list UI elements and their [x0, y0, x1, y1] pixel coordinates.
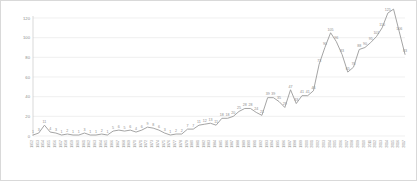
- x-axis-tick-label: 1959: [70, 140, 74, 148]
- x-axis-tick-label: 1999: [299, 140, 303, 148]
- data-point-label: 125: [385, 8, 391, 12]
- data-point-label: 95: [369, 37, 373, 41]
- data-point-label: 101: [373, 31, 379, 35]
- y-axis-tick-label: 40: [25, 94, 30, 99]
- x-axis-tick-label: 1970: [133, 140, 137, 148]
- data-point-label: 1: [32, 130, 34, 134]
- data-point-label: 4: [49, 127, 51, 131]
- y-axis-tick-label: 60: [25, 75, 30, 80]
- data-point-label: 3: [164, 128, 166, 132]
- data-point-label: 83: [403, 49, 407, 53]
- x-axis-tick-label: 1990: [247, 140, 251, 148]
- x-axis-tick-label: 1969: [127, 140, 131, 148]
- data-point-label: 7: [187, 124, 189, 128]
- x-axis-tick-label: 2006: [339, 140, 343, 148]
- x-axis-tick-label: 1983: [207, 140, 211, 148]
- data-point-label: 6: [118, 125, 120, 129]
- x-axis-tick-label: 1997: [288, 140, 292, 148]
- data-point-label: 73: [317, 59, 321, 63]
- x-axis-tick-label: 1995: [276, 140, 280, 148]
- x-axis-tick-label: 1994: [270, 140, 274, 148]
- x-axis-tick-label: 2001: [310, 140, 314, 148]
- x-axis-tick-label: 1965: [104, 140, 108, 148]
- x-axis-tick-label: 2012: [373, 140, 377, 148]
- data-point-label: 1: [61, 130, 63, 134]
- x-axis-tick-label: 1967: [116, 140, 120, 148]
- data-point-label: 1: [169, 130, 171, 134]
- x-axis-tick-label: 1953: [36, 140, 40, 148]
- data-point-label: 11: [197, 120, 201, 124]
- x-axis-tick-label: 1992: [259, 140, 263, 148]
- x-axis-tick-label: 1988: [236, 140, 240, 148]
- data-point-label: 1: [78, 130, 80, 134]
- x-axis-tick-label: 1960: [76, 140, 80, 148]
- data-point-label: 28: [243, 103, 247, 107]
- x-axis-tick-label: 1989: [242, 140, 246, 148]
- data-point-label: 1: [89, 130, 91, 134]
- data-point-label: 105: [328, 28, 334, 32]
- data-point-label: 39: [271, 92, 275, 96]
- x-axis-tick-label: 1993: [265, 140, 269, 148]
- data-point-label: 18: [220, 113, 224, 117]
- data-point-label: 6: [158, 125, 160, 129]
- data-point-label: 90: [323, 42, 327, 46]
- chart-plot-area: 0204060801001201311431211311215656469863…: [9, 8, 410, 175]
- x-axis-tick-label: 1957: [59, 140, 63, 148]
- x-axis-tick-label: 1961: [82, 140, 86, 148]
- data-point-label: 2: [175, 129, 177, 133]
- data-point-label: 33: [294, 98, 298, 102]
- data-point-label: 28: [248, 103, 252, 107]
- x-axis-tick-label: 1981: [196, 140, 200, 148]
- y-axis-tick-label: 100: [23, 35, 31, 40]
- chart-frame: 0204060801001201311431211311215656469863…: [0, 0, 417, 181]
- data-point-label: 41: [306, 90, 310, 94]
- data-point-label: 88: [357, 44, 361, 48]
- x-axis-tick-label: 1979: [185, 140, 189, 148]
- x-axis-tick-label: 1973: [150, 140, 154, 148]
- x-axis-tick-label: 2005: [333, 140, 337, 148]
- data-point-label: 83: [340, 49, 344, 53]
- data-point-label: 25: [237, 106, 241, 110]
- x-axis-tick-label: 1963: [93, 140, 97, 148]
- data-point-label: 47: [289, 85, 293, 89]
- x-axis-tick-label: 1968: [122, 140, 126, 148]
- x-axis-tick-label: 2010: [362, 140, 366, 148]
- data-point-label: 20: [231, 111, 235, 115]
- x-axis-tick-label: 1986: [225, 140, 229, 148]
- x-axis-tick-label: 1962: [87, 140, 91, 148]
- data-point-label: 39: [266, 92, 270, 96]
- x-axis-tick-label: 2007: [345, 140, 349, 148]
- x-axis-tick-label: 1952: [30, 140, 34, 148]
- data-point-label: 110: [379, 23, 385, 27]
- data-point-label: 24: [254, 107, 258, 111]
- x-axis-tick-label: 1984: [213, 140, 217, 148]
- data-point-label: 3: [55, 128, 57, 132]
- x-axis-tick-label: 2017: [402, 140, 406, 148]
- x-axis-tick-label: 1978: [179, 140, 183, 148]
- data-point-label: 90: [363, 42, 367, 46]
- data-point-label: 6: [141, 125, 143, 129]
- data-point-label: 106: [396, 27, 402, 31]
- x-axis-tick-label: 1987: [230, 140, 234, 148]
- x-axis-tick-label: 2011: [368, 140, 372, 148]
- x-axis-tick-label: 1958: [64, 140, 68, 148]
- data-point-label: 1: [72, 130, 74, 134]
- data-point-label: 6: [129, 125, 131, 129]
- data-point-label: 4: [135, 127, 137, 131]
- data-point-label: 96: [334, 36, 338, 40]
- x-axis-tick-label: 1956: [53, 140, 57, 148]
- x-axis-tick-label: 1972: [144, 140, 148, 148]
- data-point-label: 3: [38, 128, 40, 132]
- x-axis-tick-label: 1985: [219, 140, 223, 148]
- data-point-label: 12: [203, 119, 207, 123]
- x-axis-tick-label: 2004: [328, 140, 332, 148]
- x-axis-tick-label: 1975: [162, 140, 166, 148]
- x-axis-tick-label: 1998: [293, 140, 297, 148]
- data-point-label: 2: [66, 129, 68, 133]
- data-point-label: 2: [101, 129, 103, 133]
- data-point-label: 5: [124, 126, 126, 130]
- data-point-label: 65: [346, 67, 350, 71]
- x-axis-tick-label: 2008: [350, 140, 354, 148]
- data-point-label: 46: [311, 86, 315, 90]
- data-point-label: 11: [43, 120, 47, 124]
